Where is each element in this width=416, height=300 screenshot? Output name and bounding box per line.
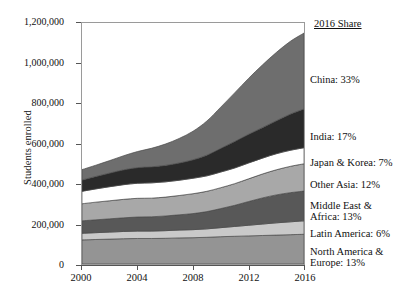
legend-item-label: Japan & Korea: 7%: [310, 157, 416, 169]
x-axis-tick-mark: [137, 265, 138, 270]
x-axis-tick-label: 2008: [183, 272, 204, 284]
x-axis-tick-mark: [304, 265, 305, 270]
y-axis-tick-labels: 0200,000400,000600,000800,0001,000,0001,…: [0, 0, 72, 300]
legend-item-label: Europe: 13%: [310, 257, 416, 269]
y-axis-tick-label: 400,000: [32, 179, 65, 189]
legend: 2016 Share China: 33%India: 17%Japan & K…: [309, 0, 416, 300]
stacked-area-chart: Students enrolled 0200,000400,000600,000…: [0, 0, 416, 300]
y-axis-tick-label: 800,000: [32, 98, 65, 108]
y-axis-tick-label: 200,000: [32, 220, 65, 230]
legend-item-label: North America &: [310, 246, 416, 258]
x-axis-tick-label: 2012: [239, 272, 260, 284]
y-axis-tick-label: 1,200,000: [24, 17, 64, 27]
legend-item-label: Africa: 13%: [310, 211, 416, 223]
legend-item-label: India: 17%: [310, 131, 416, 143]
y-axis-tick-label: 0: [59, 260, 64, 270]
y-axis-tick-label: 1,000,000: [24, 58, 64, 68]
plot-area: [81, 22, 305, 265]
x-axis-tick-mark: [81, 265, 82, 270]
x-axis-tick-label: 2000: [71, 272, 92, 284]
legend-item-label: Latin America: 6%: [310, 228, 416, 240]
legend-item-label: Middle East &: [310, 200, 416, 212]
legend-item-label: Other Asia: 12%: [310, 179, 416, 191]
legend-title: 2016 Share: [314, 18, 362, 30]
y-axis-tick-label: 600,000: [32, 139, 65, 149]
x-axis-tick-mark: [193, 265, 194, 270]
x-axis-tick-marks: [81, 265, 305, 271]
x-axis-tick-mark: [249, 265, 250, 270]
stacked-area-svg: [82, 23, 304, 264]
x-axis-tick-label: 2004: [127, 272, 148, 284]
legend-item-label: China: 33%: [310, 74, 416, 86]
